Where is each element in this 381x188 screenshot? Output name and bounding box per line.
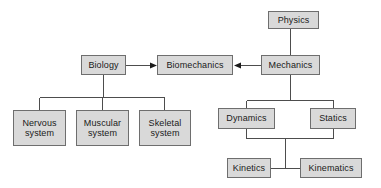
node-skeletal-system-label: Skeletal system	[149, 118, 182, 139]
node-dynamics-label: Dynamics	[226, 113, 266, 124]
node-kinematics[interactable]: Kinematics	[300, 158, 362, 178]
arrowhead-right-icon	[150, 63, 157, 69]
node-nervous-system[interactable]: Nervous system	[13, 110, 66, 146]
node-muscular-system[interactable]: Muscular system	[76, 110, 129, 146]
node-kinetics[interactable]: Kinetics	[227, 158, 271, 178]
arrowhead-left-icon	[234, 63, 241, 69]
node-biology-label: Biology	[88, 60, 118, 71]
node-nervous-system-label: Nervous system	[22, 118, 56, 139]
node-statics[interactable]: Statics	[310, 108, 356, 129]
node-mechanics-label: Mechanics	[269, 60, 313, 71]
node-biology[interactable]: Biology	[81, 55, 126, 75]
node-kinematics-label: Kinematics	[308, 163, 353, 174]
biomechanics-hierarchy-diagram: Physics Biology Biomechanics Mechanics N…	[0, 0, 381, 188]
node-biomechanics-label: Biomechanics	[166, 60, 223, 71]
node-physics-label: Physics	[278, 15, 310, 26]
node-mechanics[interactable]: Mechanics	[261, 55, 320, 75]
node-muscular-system-label: Muscular system	[84, 118, 121, 139]
node-physics[interactable]: Physics	[268, 11, 319, 29]
node-skeletal-system[interactable]: Skeletal system	[139, 110, 191, 146]
node-biomechanics[interactable]: Biomechanics	[157, 55, 233, 75]
node-dynamics[interactable]: Dynamics	[218, 108, 275, 129]
node-kinetics-label: Kinetics	[233, 163, 265, 174]
node-statics-label: Statics	[319, 113, 347, 124]
